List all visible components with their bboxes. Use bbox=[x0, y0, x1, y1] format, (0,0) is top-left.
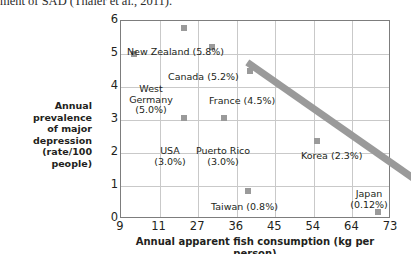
gridline-vertical bbox=[314, 21, 315, 217]
point-label-west-germany: WestGermany(5.0%) bbox=[122, 84, 180, 116]
y-tick-label-2: 2 bbox=[96, 146, 118, 158]
x-axis-ticks: 911273645546473 bbox=[120, 220, 390, 234]
point-label-line: (3.0%) bbox=[150, 157, 190, 168]
y-tick-label-4: 4 bbox=[96, 80, 118, 92]
point-label-line: France (4.5%) bbox=[209, 96, 275, 107]
point-label-usa: USA(3.0%) bbox=[150, 146, 190, 167]
point-label-france: France (4.5%) bbox=[209, 96, 275, 107]
point-label-taiwan: Taiwan (0.8%) bbox=[211, 202, 278, 213]
data-marker-taiwan bbox=[245, 188, 251, 194]
x-tick-label-27: 27 bbox=[180, 220, 214, 232]
y-axis-title-line-3: (rate/100 people) bbox=[6, 146, 92, 169]
data-marker-korea bbox=[314, 138, 320, 144]
point-label-new-zealand: New Zealand (5.8%) bbox=[127, 47, 224, 58]
y-axis-ticks: 0123456 bbox=[94, 20, 118, 218]
point-label-line: Korea (2.3%) bbox=[301, 151, 363, 162]
point-label-line: (0.12%) bbox=[348, 200, 390, 211]
x-tick-label-11: 11 bbox=[142, 220, 176, 232]
y-axis-title: Annual prevalence of major depression (r… bbox=[6, 100, 92, 169]
point-label-line: West bbox=[122, 84, 180, 95]
x-tick-label-73: 73 bbox=[373, 220, 407, 232]
x-tick-label-36: 36 bbox=[219, 220, 253, 232]
gridline-vertical bbox=[275, 21, 276, 217]
data-marker-puerto-rico bbox=[221, 115, 227, 121]
point-label-puerto-rico: Puerto Rico(3.0%) bbox=[192, 146, 254, 167]
gridline-horizontal bbox=[121, 120, 389, 121]
plot-area: New Zealand (5.8%)Canada (5.2%)WestGerma… bbox=[120, 20, 390, 218]
y-tick-label-1: 1 bbox=[96, 179, 118, 191]
y-tick-label-3: 3 bbox=[96, 113, 118, 125]
x-tick-label-45: 45 bbox=[257, 220, 291, 232]
data-marker-france bbox=[247, 68, 253, 74]
gridline-vertical bbox=[237, 21, 238, 217]
gridline-horizontal bbox=[121, 186, 389, 187]
point-label-line: Canada (5.2%) bbox=[168, 72, 239, 83]
y-tick-label-5: 5 bbox=[96, 47, 118, 59]
point-label-korea: Korea (2.3%) bbox=[301, 151, 363, 162]
data-marker-usa bbox=[181, 115, 187, 121]
x-axis-title: Annual apparent fish consumption (kg per… bbox=[120, 236, 390, 254]
data-marker-japan bbox=[375, 209, 381, 215]
point-label-line: (5.0%) bbox=[122, 105, 180, 116]
point-label-canada: Canada (5.2%) bbox=[168, 72, 239, 83]
point-label-japan: Japan(0.12%) bbox=[348, 189, 390, 210]
scatter-plot-figure: Annual prevalence of major depression (r… bbox=[0, 0, 411, 254]
point-label-line: New Zealand (5.8%) bbox=[127, 47, 224, 58]
point-label-line: Taiwan (0.8%) bbox=[211, 202, 278, 213]
point-label-line: Japan bbox=[348, 189, 390, 200]
data-marker-new-zealand bbox=[181, 25, 187, 31]
y-tick-label-6: 6 bbox=[96, 14, 118, 26]
x-tick-label-9: 9 bbox=[103, 220, 137, 232]
x-tick-label-54: 54 bbox=[296, 220, 330, 232]
x-tick-label-64: 64 bbox=[334, 220, 368, 232]
point-label-line: (3.0%) bbox=[192, 157, 254, 168]
y-axis-title-line-1: Annual prevalence bbox=[6, 100, 92, 123]
y-axis-title-line-2: of major depression bbox=[6, 123, 92, 146]
point-label-line: Puerto Rico bbox=[192, 146, 254, 157]
gridline-vertical bbox=[352, 21, 353, 217]
point-label-line: USA bbox=[150, 146, 190, 157]
